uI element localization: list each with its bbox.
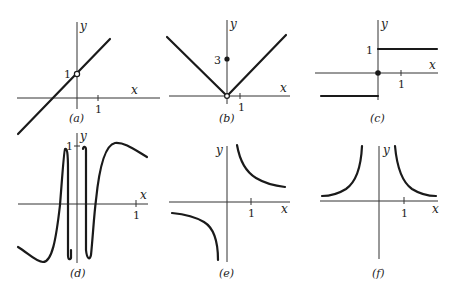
y-axis-label: y xyxy=(380,17,388,31)
oscillating-curve xyxy=(18,143,147,262)
y-tick-label: 1 xyxy=(366,44,373,57)
y-tick-label: 3 xyxy=(214,54,221,67)
open-point xyxy=(225,94,230,99)
panel-f: y x 1 (f) xyxy=(320,143,439,280)
y-axis-label: y xyxy=(215,143,223,157)
x-axis-label: x xyxy=(281,202,288,216)
function-graphs-figure: y x 1 1 (a) y x 1 3 (b) y x 1 1 (c) xyxy=(0,0,452,297)
branch-left xyxy=(322,146,362,196)
y-axis-label: y xyxy=(382,143,390,157)
panel-caption: (f) xyxy=(372,267,385,280)
panel-caption: (e) xyxy=(219,267,234,280)
filled-point xyxy=(375,70,381,76)
panel-b: y x 1 3 (b) xyxy=(167,17,290,125)
branch-right xyxy=(395,146,436,196)
x-tick-label: 1 xyxy=(248,207,255,220)
x-tick-label: 1 xyxy=(401,207,408,220)
panel-caption: (d) xyxy=(70,267,86,280)
y-axis-label: y xyxy=(229,17,237,31)
x-axis-label: x xyxy=(429,58,436,72)
hyperbola-branch-left xyxy=(172,213,218,260)
x-tick-label: 1 xyxy=(238,101,245,114)
hyperbola-branch-right xyxy=(237,145,285,187)
open-point xyxy=(74,71,79,76)
panel-d: y x 1 1 (d) xyxy=(18,129,148,280)
line-curve xyxy=(18,39,110,134)
y-axis-label: y xyxy=(79,129,87,143)
x-tick-label: 1 xyxy=(95,103,102,116)
panel-caption: (a) xyxy=(69,112,84,125)
panel-a: y x 1 1 (a) xyxy=(17,19,160,134)
panel-e: y x 1 (e) xyxy=(169,143,290,280)
panel-c: y x 1 1 (c) xyxy=(315,17,438,125)
x-axis-label: x xyxy=(140,188,147,202)
x-tick-label: 1 xyxy=(398,78,405,91)
x-tick-label: 1 xyxy=(133,209,140,222)
x-axis-label: x xyxy=(432,202,439,216)
filled-point xyxy=(224,56,229,61)
panel-caption: (c) xyxy=(370,112,385,125)
x-axis-label: x xyxy=(280,81,287,95)
panel-caption: (b) xyxy=(219,112,235,125)
x-axis-label: x xyxy=(131,83,138,97)
y-axis-label: y xyxy=(79,19,87,33)
